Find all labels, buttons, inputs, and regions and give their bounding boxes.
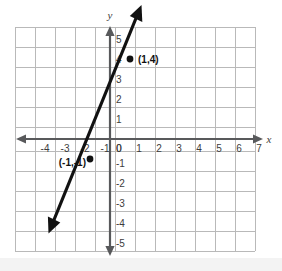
- x-tick-label: 1: [136, 143, 142, 154]
- x-tick-label: 6: [236, 143, 242, 154]
- x-tick-label: 7: [256, 143, 262, 154]
- point-label-neg1-neg1: (-1,-1): [59, 157, 86, 168]
- y-axis-label: y: [107, 9, 113, 21]
- y-tick-label: 5: [116, 34, 122, 45]
- y-tick-label: 0: [116, 143, 122, 154]
- coordinate-plane: -4 -3 -2 -1 0 1 2 3 4 5 6 7 5 4 3 2 1 0 …: [0, 0, 282, 271]
- x-tick-label: -3: [61, 143, 70, 154]
- x-tick-label: 2: [156, 143, 162, 154]
- x-tick-label: 4: [196, 143, 202, 154]
- y-tick-label: -4: [116, 218, 125, 229]
- graph-figure: -4 -3 -2 -1 0 1 2 3 4 5 6 7 5 4 3 2 1 0 …: [0, 0, 282, 271]
- x-axis-arrow-left: [16, 134, 26, 143]
- point-label-1-4: (1,4): [138, 54, 159, 65]
- y-tick-label: 3: [116, 74, 122, 85]
- x-tick-label: -4: [41, 143, 50, 154]
- data-point-1-4: [127, 56, 134, 63]
- x-tick-label: 3: [176, 143, 182, 154]
- x-tick-labels: -4 -3 -2 -1 0 1 2 3 4 5 6 7: [41, 143, 263, 154]
- footer-band: [0, 258, 282, 271]
- data-point-neg1-neg1: [87, 156, 94, 163]
- y-tick-label: -2: [116, 178, 125, 189]
- x-tick-label: 5: [216, 143, 222, 154]
- y-tick-label: -1: [116, 158, 125, 169]
- y-tick-label: 1: [116, 114, 122, 125]
- y-axis: [105, 26, 114, 256]
- y-tick-label: -5: [116, 238, 125, 249]
- x-axis-label: x: [266, 133, 272, 145]
- y-tick-label: 2: [116, 94, 122, 105]
- y-tick-label: -3: [116, 198, 125, 209]
- x-tick-label: -1: [101, 143, 110, 154]
